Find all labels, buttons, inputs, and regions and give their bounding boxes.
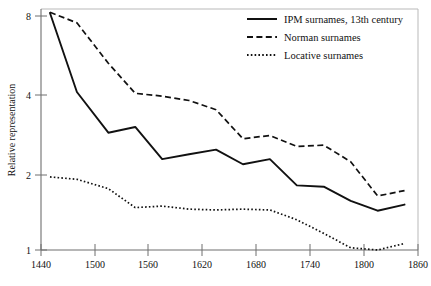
x-tick-label-1800: 1800 xyxy=(354,259,374,270)
x-tick-label-1860: 1860 xyxy=(408,259,428,270)
x-tick-label-1440: 1440 xyxy=(31,259,51,270)
x-tick-label-1500: 1500 xyxy=(85,259,105,270)
y-tick-label-4: 4 xyxy=(26,90,31,101)
chart-background xyxy=(0,0,431,286)
x-tick-label-1560: 1560 xyxy=(138,259,158,270)
x-tick-label-1740: 1740 xyxy=(300,259,320,270)
y-tick-label-1: 1 xyxy=(26,245,31,256)
x-tick-label-1680: 1680 xyxy=(246,259,266,270)
y-axis-title: Relative representation xyxy=(6,84,17,176)
legend-label-norman-surnames: Norman surnames xyxy=(284,32,361,43)
legend-label-ipm-surnames: IPM surnames, 13th century xyxy=(284,14,404,25)
x-tick-label-1620: 1620 xyxy=(192,259,212,270)
chart-container: 1 2 4 8 1440 1500 1560 1620 1680 1740 18… xyxy=(0,0,431,286)
y-tick-label-2: 2 xyxy=(26,170,31,181)
line-chart: 1 2 4 8 1440 1500 1560 1620 1680 1740 18… xyxy=(0,0,431,286)
legend-label-locative-surnames: Locative surnames xyxy=(284,50,363,61)
y-tick-label-8: 8 xyxy=(26,11,31,22)
